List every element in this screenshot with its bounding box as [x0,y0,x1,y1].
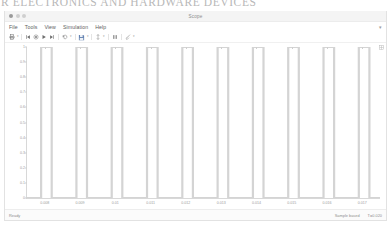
x-axis-tick-mark [221,47,222,49]
x-axis-tick-label: 0.013 [217,201,226,205]
play-icon[interactable] [41,33,48,42]
x-axis-tick-label: 0.009 [75,201,84,205]
toolbar-separator [108,34,109,40]
restart-caret-icon[interactable]: ▾ [70,35,72,38]
menu-view[interactable]: View [44,24,56,30]
x-axis-tick-mark [362,47,363,49]
x-axis-tick-label: 0.012 [181,201,190,205]
save-caret-icon[interactable]: ▾ [87,35,89,38]
restart-arrow-icon[interactable] [62,33,69,42]
x-axis-tick-label: 0.014 [252,201,261,205]
x-axis-tick-mark [45,47,46,49]
style-caret-icon[interactable]: ▾ [133,35,135,38]
plot-area[interactable]: 10.90.80.70.60.50.40.30.20.100.0080.0090… [5,43,386,219]
status-message: Ready [9,213,20,218]
status-right-group: Sample based T=0.020 [335,213,382,218]
x-axis-tick-mark [327,47,328,49]
trace-pulse-train [27,47,380,198]
x-axis-tick-label: 0.01 [112,201,119,205]
x-axis-tick-mark [292,47,293,49]
y-axis-tick-mark [25,152,27,153]
x-axis-tick-mark [256,47,257,49]
step-forward-icon[interactable] [49,33,56,42]
y-axis-tick-mark [25,107,27,108]
y-axis-tick-mark [25,198,27,199]
status-time-readout: T=0.020 [368,213,382,218]
x-axis-tick-mark [186,47,187,49]
x-axis-tick-label: 0.016 [323,201,332,205]
x-axis-tick-mark [115,47,116,49]
y-axis-tick-mark [25,47,27,48]
toolbar-separator [75,34,76,40]
x-axis-tick-mark [151,47,152,49]
toolbar-separator [91,34,92,40]
toolbar: ▾ ▾ [5,32,386,43]
menu-tools[interactable]: Tools [25,24,38,30]
chart-trace [27,47,380,198]
save-disk-icon[interactable] [78,33,85,42]
toolbar-separator [21,34,22,40]
toolbar-separator [121,34,122,40]
y-axis-tick-mark [25,77,27,78]
step-back-icon[interactable] [25,33,32,42]
y-axis-tick-mark [25,182,27,183]
y-axis-tick-mark [25,92,27,93]
window-title: Scope [5,14,386,19]
toolbar-separator [58,34,59,40]
paintbrush-icon[interactable] [124,33,131,42]
chart-axes: 10.90.80.70.60.50.40.30.20.100.0080.0090… [26,47,380,199]
x-axis-tick-label: 0.008 [40,201,49,205]
scope-window: Scope File Tools View Simulation Help ▾ … [4,11,387,221]
status-bar: Ready Sample based T=0.020 [5,209,386,220]
title-bar: Scope [5,11,386,22]
x-axis-tick-label: 0.017 [358,201,367,205]
menu-overflow-chevron-icon[interactable]: ▾ [379,24,382,30]
background-page-text: R ELECTRONICS AND HARDWARE DEVICES [0,0,391,7]
y-axis-tick-mark [25,167,27,168]
printer-icon[interactable] [8,33,15,42]
y-axis-tick-mark [25,62,27,63]
menu-help[interactable]: Help [95,24,106,30]
signal-bars-icon[interactable] [111,33,118,42]
y-axis-tick-mark [25,137,27,138]
x-axis-tick-label: 0.015 [287,201,296,205]
stop-circle-icon[interactable] [33,33,40,42]
menu-simulation[interactable]: Simulation [63,24,88,30]
cursor-measure-caret-icon[interactable]: ▾ [103,35,105,38]
menu-file[interactable]: File [9,24,18,30]
printer-caret-icon[interactable]: ▾ [17,35,19,38]
status-sample-mode: Sample based [335,213,360,218]
x-axis-tick-mark [80,47,81,49]
cursor-measure-icon[interactable] [95,33,102,42]
x-axis-tick-label: 0.011 [146,201,155,205]
y-axis-tick-mark [25,122,27,123]
menu-bar: File Tools View Simulation Help ▾ [5,22,386,32]
